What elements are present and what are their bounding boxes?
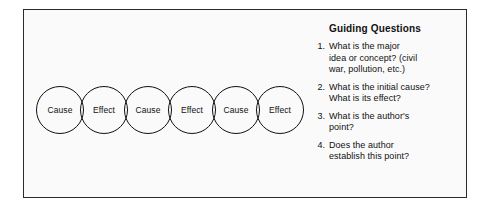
- guiding-question-item: 4. Does the author establish this point?: [307, 140, 457, 163]
- question-number: 2.: [307, 82, 329, 94]
- diagram-canvas: Cause Effect Cause Effect Cause Effect G…: [0, 0, 490, 220]
- guiding-questions-panel: Guiding Questions 1. What is the major i…: [307, 23, 457, 169]
- chain-node-label: Effect: [269, 106, 291, 115]
- chain-node-5: Cause: [212, 86, 260, 134]
- guiding-questions-heading: Guiding Questions: [329, 23, 457, 35]
- chain-node-2: Effect: [80, 86, 128, 134]
- diagram-panel: Cause Effect Cause Effect Cause Effect G…: [23, 9, 467, 198]
- chain-node-label: Effect: [93, 106, 115, 115]
- question-number: 4.: [307, 140, 329, 152]
- chain-node-3: Cause: [124, 86, 172, 134]
- chain-node-label: Cause: [47, 106, 72, 115]
- question-number: 1.: [307, 41, 329, 53]
- cause-effect-chain: Cause Effect Cause Effect Cause Effect: [36, 86, 312, 138]
- chain-node-label: Cause: [135, 106, 160, 115]
- question-text: Does the author establish this point?: [329, 140, 457, 163]
- guiding-question-item: 2. What is the initial cause? What is it…: [307, 82, 457, 105]
- chain-node-4: Effect: [168, 86, 216, 134]
- guiding-question-item: 1. What is the major idea or concept? (c…: [307, 41, 457, 76]
- question-text: What is the author's point?: [329, 111, 457, 134]
- question-number: 3.: [307, 111, 329, 123]
- question-text: What is the initial cause? What is its e…: [329, 82, 457, 105]
- chain-node-6: Effect: [256, 86, 304, 134]
- question-text: What is the major idea or concept? (civi…: [329, 41, 457, 76]
- guiding-question-item: 3. What is the author's point?: [307, 111, 457, 134]
- chain-node-1: Cause: [36, 86, 84, 134]
- chain-node-label: Cause: [223, 106, 248, 115]
- chain-node-label: Effect: [181, 106, 203, 115]
